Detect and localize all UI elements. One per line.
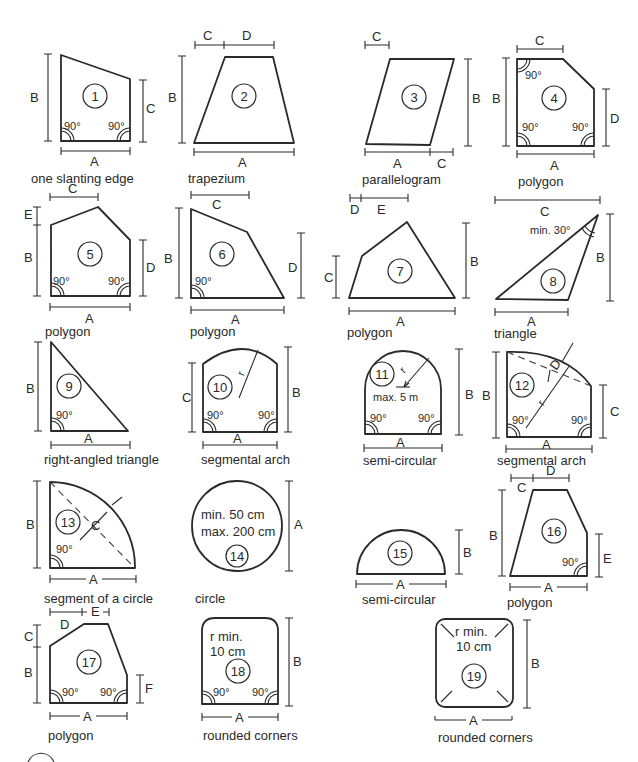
- shape-12: D r 90° 90° 12 B C A segmental arch: [482, 343, 619, 468]
- svg-text:C: C: [540, 204, 549, 219]
- svg-text:19: 19: [467, 669, 481, 684]
- caption-4: polygon: [518, 174, 564, 189]
- shape-4: 90° 90° 90° 4 C B D A polygon: [492, 33, 619, 189]
- svg-text:A: A: [396, 314, 405, 329]
- shape-19: r min. 10 cm 19 B A rounded corners: [435, 619, 540, 745]
- svg-text:C: C: [24, 629, 33, 644]
- caption-19: rounded corners: [438, 730, 533, 745]
- svg-text:90°: 90°: [562, 556, 579, 568]
- caption-3: parallelogram: [362, 172, 441, 187]
- svg-text:14: 14: [230, 549, 244, 564]
- svg-text:90°: 90°: [572, 121, 589, 133]
- caption-15: semi-circular: [362, 592, 436, 607]
- caption-10: segmental arch: [201, 452, 290, 467]
- svg-text:A: A: [393, 156, 402, 171]
- svg-text:B: B: [470, 254, 479, 269]
- caption-16: polygon: [507, 595, 553, 610]
- svg-text:90°: 90°: [53, 275, 70, 287]
- svg-text:17: 17: [82, 655, 96, 670]
- svg-text:B: B: [24, 250, 33, 265]
- svg-text:B: B: [472, 91, 481, 106]
- svg-text:3: 3: [410, 90, 417, 105]
- caption-17: polygon: [48, 728, 94, 743]
- svg-text:D: D: [546, 356, 564, 372]
- svg-text:D: D: [146, 260, 155, 275]
- svg-text:10 cm: 10 cm: [456, 639, 491, 654]
- shape-7: 7 D E C B A polygon: [324, 194, 479, 340]
- svg-text:D: D: [242, 28, 251, 43]
- svg-text:15: 15: [393, 546, 407, 561]
- svg-text:A: A: [396, 577, 405, 592]
- svg-text:90°: 90°: [64, 120, 81, 132]
- svg-text:C: C: [372, 29, 381, 44]
- svg-text:2: 2: [240, 89, 247, 104]
- svg-text:E: E: [377, 202, 386, 217]
- shape-5: 90° 90° 5 C E B D A polygon: [24, 181, 155, 339]
- shape-6: 90° 6 C B D A polygon: [164, 191, 305, 339]
- svg-text:90°: 90°: [195, 275, 212, 287]
- svg-text:6: 6: [218, 247, 225, 262]
- svg-text:A: A: [542, 437, 551, 452]
- svg-text:B: B: [489, 528, 498, 543]
- svg-text:D: D: [546, 463, 555, 478]
- shapes-diagram: 90° 90° 1 B C A one slanting edge 2 C D …: [0, 0, 638, 762]
- svg-text:90°: 90°: [62, 686, 79, 698]
- svg-text:90°: 90°: [525, 69, 542, 81]
- shape-13: C 90° 13 B A segment of a circle: [26, 481, 153, 606]
- svg-text:18: 18: [231, 664, 245, 679]
- shape-14: min. 50 cm max. 200 cm 14 A circle: [192, 481, 303, 606]
- svg-text:C: C: [212, 197, 221, 212]
- svg-text:min. 30°: min. 30°: [530, 224, 570, 236]
- svg-text:r min.: r min.: [210, 629, 243, 644]
- svg-text:A: A: [550, 158, 559, 173]
- svg-text:A: A: [235, 710, 244, 725]
- svg-text:B: B: [492, 91, 501, 106]
- svg-text:7: 7: [396, 264, 403, 279]
- shape-15: 15 B A semi-circular: [356, 530, 472, 607]
- svg-text:B: B: [26, 517, 35, 532]
- shape-1: 90° 90° 1 B C A one slanting edge: [30, 54, 155, 186]
- svg-text:90°: 90°: [512, 414, 529, 426]
- shape-10: r 90° 90° 10 C B A segmental arch: [182, 347, 301, 467]
- svg-text:r: r: [535, 398, 547, 408]
- shape-3: 3 C B A C parallelogram: [362, 29, 481, 187]
- svg-text:90°: 90°: [258, 409, 275, 421]
- svg-text:min. 50 cm: min. 50 cm: [201, 507, 265, 522]
- svg-text:90°: 90°: [108, 120, 125, 132]
- svg-text:B: B: [482, 388, 491, 403]
- svg-text:A: A: [294, 517, 303, 532]
- caption-2: trapezium: [188, 171, 245, 186]
- svg-text:max. 200 cm: max. 200 cm: [201, 524, 275, 539]
- svg-text:D: D: [350, 202, 359, 217]
- svg-text:11: 11: [375, 367, 389, 382]
- svg-text:1: 1: [91, 89, 98, 104]
- svg-text:C: C: [146, 101, 155, 116]
- svg-text:13: 13: [61, 515, 75, 530]
- caption-7: polygon: [347, 325, 393, 340]
- svg-text:r: r: [234, 369, 247, 377]
- partial-circle-marker: [28, 753, 54, 762]
- shape-16: 90° 16 C D B E A polygon: [489, 463, 612, 610]
- caption-18: rounded corners: [203, 728, 298, 743]
- svg-text:C: C: [610, 404, 619, 419]
- shape-18: r min. 10 cm 18 90° 90° B A rounded corn…: [202, 618, 302, 743]
- svg-text:max. 5 m: max. 5 m: [373, 391, 418, 403]
- svg-text:B: B: [596, 250, 605, 265]
- svg-text:B: B: [30, 90, 39, 105]
- svg-text:B: B: [164, 251, 173, 266]
- svg-text:A: A: [84, 431, 93, 446]
- svg-text:90°: 90°: [207, 409, 224, 421]
- svg-text:90°: 90°: [56, 409, 73, 421]
- svg-text:C: C: [535, 33, 544, 48]
- svg-text:A: A: [89, 572, 98, 587]
- svg-text:90°: 90°: [252, 686, 269, 698]
- svg-text:B: B: [292, 385, 301, 400]
- svg-text:90°: 90°: [100, 686, 117, 698]
- svg-text:90°: 90°: [522, 121, 539, 133]
- svg-text:9: 9: [65, 379, 72, 394]
- svg-text:r min.: r min.: [455, 624, 488, 639]
- caption-14: circle: [195, 591, 225, 606]
- caption-6: polygon: [190, 324, 236, 339]
- svg-text:C: C: [437, 156, 446, 171]
- svg-text:90°: 90°: [108, 275, 125, 287]
